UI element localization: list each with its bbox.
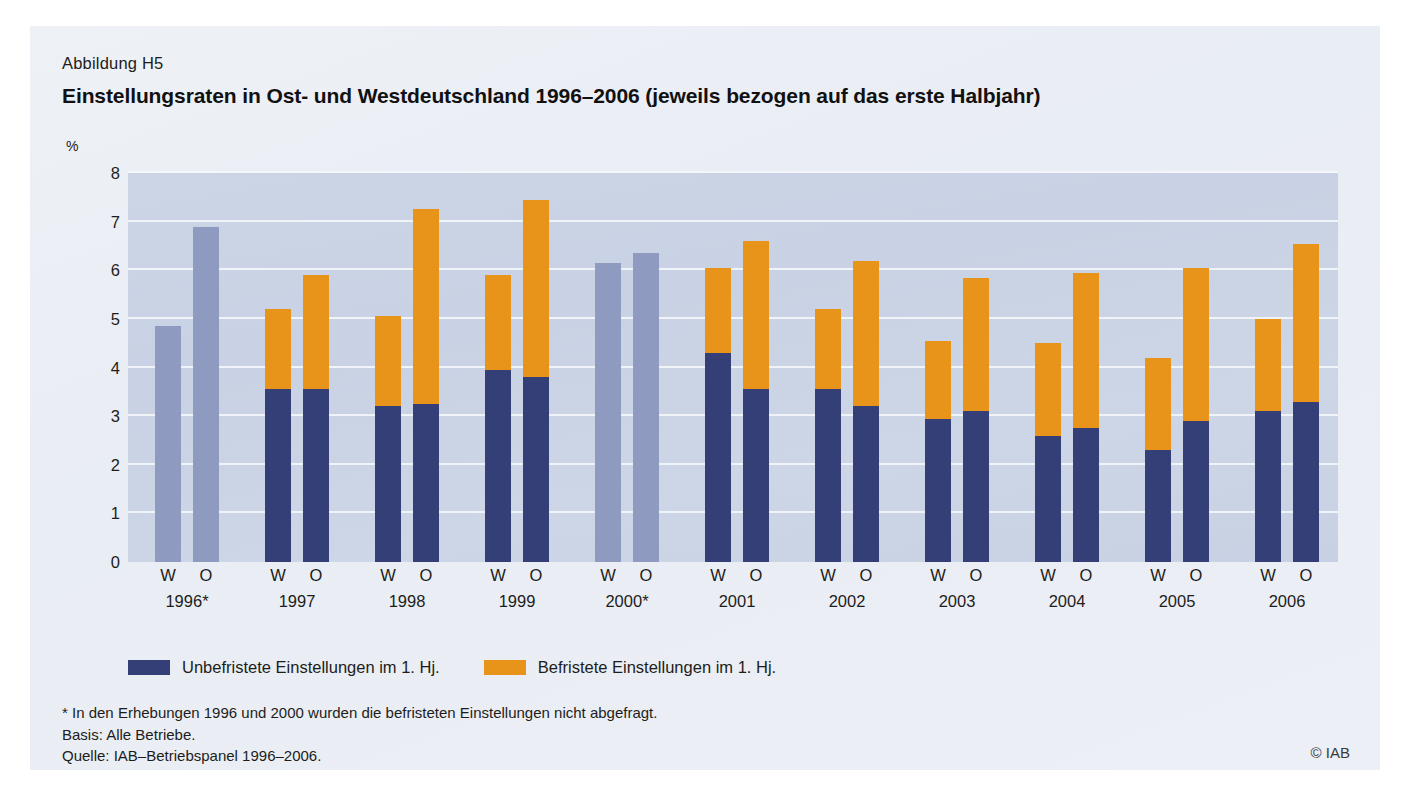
y-axis-tick-5: 5 [90,309,120,328]
segment-befristet [853,261,879,407]
segment-unbefristet [1293,402,1319,562]
legend-label: Unbefristete Einstellungen im 1. Hj. [182,658,440,677]
bar-1999-W [485,275,511,562]
segment-unbefristet [303,389,329,562]
segment-unbefristet [743,389,769,562]
segment-befristet [815,309,841,389]
segment-unbefristet [1255,411,1281,562]
segment-unbefristet [1035,436,1061,562]
legend-unbefristete: Unbefristete Einstellungen im 1. Hj. [128,658,440,677]
plot-wrapper: 012345678 [90,166,1348,562]
bar-1997-W [265,309,291,562]
bar-2004-O [1073,273,1099,562]
x-label-year: 2002 [829,592,866,611]
bar-2004-W [1035,343,1061,562]
bar-1997-O [303,275,329,562]
figure-title: Einstellungsraten in Ost- und Westdeutsc… [62,84,1040,108]
segment-befristet [1255,319,1281,411]
bar-2005-O [1183,268,1209,562]
x-label-region-O: O [750,566,763,585]
x-label-year: 2005 [1159,592,1196,611]
segment-befristet [375,316,401,406]
segment-unbefristet [853,406,879,562]
x-label-year: 2006 [1269,592,1306,611]
bar-2003-O [963,278,989,562]
segment-befristet [265,309,291,389]
x-label-year: 2004 [1049,592,1086,611]
x-label-region-W: W [820,566,836,585]
y-axis-tick-8: 8 [90,164,120,183]
segment-unbefristet [1183,421,1209,562]
legend-swatch-icon [484,660,526,675]
bar-2002-O [853,261,879,562]
x-label-year: 1996* [165,592,208,611]
x-label-region-W: W [1260,566,1276,585]
gridline-8 [128,171,1338,173]
x-label-region-O: O [970,566,983,585]
segment-befristet [1145,358,1171,450]
bar-1998-O [413,209,439,562]
y-axis-tick-1: 1 [90,504,120,523]
x-label-year: 2000* [605,592,648,611]
segment-unbefristet [413,404,439,562]
segment-befristet [963,278,989,412]
x-label-region-W: W [930,566,946,585]
gridline-7 [128,220,1338,222]
bar-2005-W [1145,358,1171,562]
copyright-label: © IAB [1311,744,1350,761]
segment-befristet [925,341,951,419]
legend-swatch-icon [128,660,170,675]
x-label-region-O: O [1300,566,1313,585]
legend: Unbefristete Einstellungen im 1. Hj.Befr… [128,658,820,677]
bar-2000-W [595,263,621,562]
x-label-region-O: O [310,566,323,585]
x-label-region-O: O [860,566,873,585]
footnote-line-2: Basis: Alle Betriebe. [62,724,1262,746]
x-label-region-O: O [530,566,543,585]
segment-gesamt [633,253,659,562]
segment-gesamt [193,227,219,563]
footnote-line-3: Quelle: IAB–Betriebspanel 1996–2006. [62,745,1262,767]
bar-2006-W [1255,319,1281,562]
x-label-year: 2001 [719,592,756,611]
x-label-region-W: W [1150,566,1166,585]
segment-befristet [413,209,439,404]
bar-1996-O [193,227,219,563]
segment-befristet [523,200,549,377]
x-label-year: 1997 [279,592,316,611]
x-label-year: 2003 [939,592,976,611]
x-label-region-W: W [600,566,616,585]
bar-1996-W [155,326,181,562]
segment-befristet [485,275,511,370]
segment-gesamt [595,263,621,562]
segment-unbefristet [1145,450,1171,562]
bar-2002-W [815,309,841,562]
segment-gesamt [155,326,181,562]
plot-area [128,173,1338,562]
segment-unbefristet [963,411,989,562]
footnote-line-1: * In den Erhebungen 1996 und 2000 wurden… [62,702,1262,724]
x-label-region-W: W [380,566,396,585]
figure-label: Abbildung H5 [62,54,163,73]
y-axis-tick-3: 3 [90,407,120,426]
segment-befristet [1293,244,1319,402]
bar-2001-O [743,241,769,562]
segment-unbefristet [375,406,401,562]
segment-befristet [1073,273,1099,429]
gridline-6 [128,268,1338,270]
segment-befristet [743,241,769,389]
y-axis-tick-6: 6 [90,261,120,280]
segment-befristet [705,268,731,353]
x-label-region-W: W [1040,566,1056,585]
segment-unbefristet [1073,428,1099,562]
x-label-region-O: O [200,566,213,585]
x-label-region-W: W [490,566,506,585]
x-label-region-W: W [270,566,286,585]
segment-unbefristet [705,353,731,562]
segment-unbefristet [925,419,951,562]
legend-label: Befristete Einstellungen im 1. Hj. [538,658,776,677]
x-axis-labels: WO1996*WO1997WO1998WO1999WO2000*WO2001WO… [90,566,1348,626]
bar-2000-O [633,253,659,562]
x-label-year: 1999 [499,592,536,611]
bar-1999-O [523,200,549,562]
